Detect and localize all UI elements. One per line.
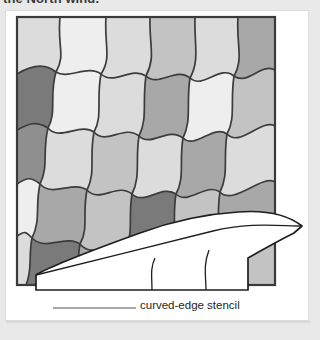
panel-shadow — [6, 321, 311, 324]
figure-root: the North wind. — [0, 0, 320, 340]
figure-caption: curved-edge stencil — [140, 299, 240, 312]
running-head: the North wind. — [0, 0, 320, 9]
running-head-text: the North wind. — [3, 0, 99, 6]
figure-panel — [5, 10, 309, 321]
